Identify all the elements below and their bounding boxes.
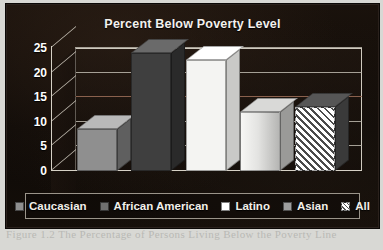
bar-front-face bbox=[295, 107, 335, 171]
legend-item-caucasian[interactable]: Caucasian bbox=[15, 200, 87, 212]
chart-legend: CaucasianAfrican AmericanLatinoAsianAll bbox=[25, 193, 360, 219]
legend-item-african-american[interactable]: African American bbox=[100, 200, 209, 212]
bar-front-face bbox=[186, 60, 226, 171]
legend-swatch-icon bbox=[283, 202, 292, 211]
bar-front-face bbox=[77, 129, 117, 171]
y-tick-label-15: 15 bbox=[21, 90, 47, 104]
bar-african-american bbox=[131, 53, 171, 171]
bar-caucasian bbox=[77, 129, 117, 171]
bar-side-face bbox=[335, 96, 349, 171]
bar-side-face bbox=[280, 101, 294, 171]
legend-label: Latino bbox=[235, 200, 270, 212]
legend-label: African American bbox=[114, 200, 209, 212]
y-tick-label-10: 10 bbox=[21, 115, 47, 129]
bar-front-face bbox=[131, 53, 171, 171]
legend-item-asian[interactable]: Asian bbox=[283, 200, 328, 212]
legend-swatch-icon bbox=[221, 202, 230, 211]
y-tick-label-25: 25 bbox=[21, 41, 47, 55]
bar-all bbox=[295, 107, 335, 171]
legend-swatch-icon bbox=[15, 202, 24, 211]
page-root: Percent Below Poverty Level 0510152025 C… bbox=[0, 0, 383, 250]
legend-label: Asian bbox=[297, 200, 328, 212]
bar-side-face bbox=[171, 42, 185, 171]
legend-swatch-icon bbox=[341, 202, 350, 211]
y-tick-label-20: 20 bbox=[21, 66, 47, 80]
legend-label: Caucasian bbox=[29, 200, 87, 212]
bar-series bbox=[29, 43, 364, 193]
y-tick-label-5: 5 bbox=[21, 139, 47, 153]
y-tick-label-0: 0 bbox=[21, 164, 47, 178]
bar-side-face bbox=[226, 49, 240, 171]
legend-label: All bbox=[355, 200, 370, 212]
page-caption-bleed: Figure 1.2 The Percentage of Persons Liv… bbox=[6, 228, 377, 248]
legend-swatch-icon bbox=[100, 202, 109, 211]
plot-area: 0510152025 bbox=[29, 43, 364, 193]
chart-title: Percent Below Poverty Level bbox=[7, 17, 378, 31]
bar-asian bbox=[240, 112, 280, 171]
legend-item-all[interactable]: All bbox=[341, 200, 370, 212]
bar-front-face bbox=[240, 112, 280, 171]
bar-latino bbox=[186, 60, 226, 171]
legend-item-latino[interactable]: Latino bbox=[221, 200, 270, 212]
chart-container: Percent Below Poverty Level 0510152025 C… bbox=[6, 4, 379, 228]
y-axis-labels: 0510152025 bbox=[17, 43, 47, 193]
